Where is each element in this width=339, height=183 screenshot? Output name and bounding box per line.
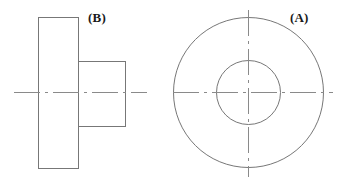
engineering-drawing-canvas: .solid-line { fill: none; stroke: #77777… [0, 0, 339, 183]
front-view-group [173, 10, 333, 177]
side-view-label: (B) [88, 11, 106, 24]
drawing-svg: .solid-line { fill: none; stroke: #77777… [0, 0, 339, 183]
side-view-group [14, 18, 147, 169]
boss-rect [79, 62, 126, 127]
front-view-label: (A) [290, 11, 309, 24]
